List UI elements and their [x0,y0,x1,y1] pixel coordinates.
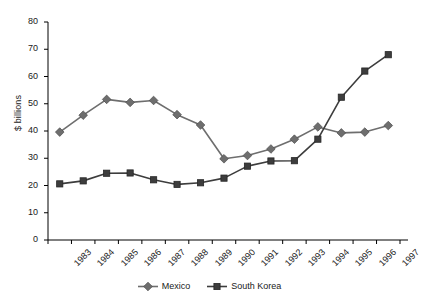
series-mexico [55,95,392,163]
x-axis-ticks [48,240,400,244]
data-point-marker [384,121,393,130]
data-point-marker [315,136,321,142]
data-point-marker [149,96,158,105]
data-point-marker [385,52,391,58]
data-point-marker [291,158,297,164]
data-point-marker [337,129,346,138]
data-point-marker [362,68,368,74]
data-point-marker [243,151,252,160]
y-axis-ticks [44,22,48,240]
data-point-marker [221,175,227,181]
data-point-marker [197,180,203,186]
axis-lines [48,22,408,240]
square-marker-icon [206,281,228,292]
data-point-marker [80,178,86,184]
data-point-marker [268,158,274,164]
legend-label: Mexico [162,282,191,291]
data-point-marker [314,123,323,132]
legend-item-south-korea[interactable]: South Korea [206,281,281,292]
data-point-marker [290,135,299,144]
data-point-marker [338,94,344,100]
data-point-marker [102,95,111,104]
data-point-marker [127,170,133,176]
data-point-marker [143,282,152,291]
data-point-marker [267,145,276,154]
data-point-marker [360,128,369,137]
series-south-korea [57,52,392,188]
data-point-marker [126,98,135,107]
data-point-marker [104,170,110,176]
data-point-marker [173,110,182,119]
data-point-marker [151,177,157,183]
chart-legend: MexicoSouth Korea [0,281,418,292]
legend-item-mexico[interactable]: Mexico [137,281,191,292]
data-point-marker [214,283,220,289]
data-point-marker [244,163,250,169]
diamond-marker-icon [137,281,159,292]
data-point-marker [57,181,63,187]
data-point-marker [174,181,180,187]
legend-label: South Korea [231,282,281,291]
